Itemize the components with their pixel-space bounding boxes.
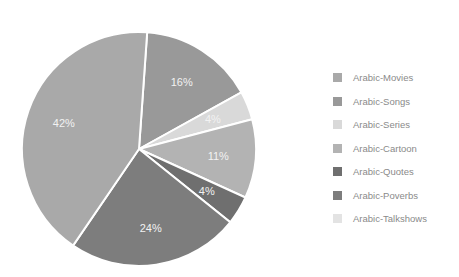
legend-item-poverbs[interactable]: Arabic-Poverbs [333,184,427,208]
legend-item-movies[interactable]: Arabic-Movies [333,66,427,90]
slice-percent-label: 42% [53,117,75,129]
legend-swatch-icon [333,120,342,129]
legend-swatch-icon [333,214,342,223]
legend-label: Arabic-Talkshows [353,213,427,224]
legend-swatch-icon [333,144,342,153]
legend-label: Arabic-Series [353,119,410,130]
legend-label: Arabic-Cartoon [353,143,417,154]
legend-label: Arabic-Songs [353,96,410,107]
legend-item-series[interactable]: Arabic-Series [333,113,427,137]
legend-item-cartoon[interactable]: Arabic-Cartoon [333,137,427,161]
legend-label: Arabic-Movies [353,72,413,83]
slice-percent-label: 4% [205,113,221,125]
legend-label: Arabic-Quotes [353,166,414,177]
legend-swatch-icon [333,167,342,176]
legend-item-quotes[interactable]: Arabic-Quotes [333,160,427,184]
legend-item-talkshows[interactable]: Arabic-Talkshows [333,207,427,231]
legend-item-songs[interactable]: Arabic-Songs [333,90,427,114]
legend-swatch-icon [333,97,342,106]
chart-legend: Arabic-Movies Arabic-Songs Arabic-Series… [333,66,427,231]
legend-swatch-icon [333,191,342,200]
pie-chart: 16%4%11%4%24%42% [0,0,300,277]
slice-percent-label: 4% [199,185,215,197]
legend-label: Arabic-Poverbs [353,190,418,201]
slice-percent-label: 24% [140,222,162,234]
slice-percent-label: 11% [208,150,229,162]
slice-percent-label: 16% [171,76,193,88]
legend-swatch-icon [333,73,342,82]
